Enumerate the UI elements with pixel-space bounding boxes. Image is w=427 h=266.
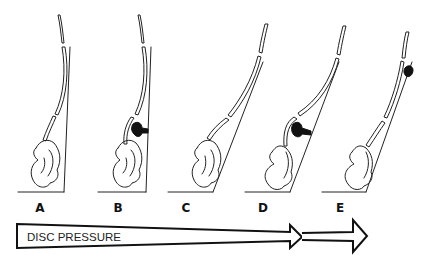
- panel-a-figure: [18, 15, 70, 192]
- panel-label-c: C: [182, 201, 191, 215]
- disc-pressure-arrow: DISC PRESSURE: [17, 220, 367, 252]
- panel-c-figure: [168, 24, 268, 192]
- panel-label-b: B: [113, 201, 122, 215]
- panel-e-figure: [322, 32, 413, 192]
- panel-label-e: E: [336, 201, 344, 215]
- panel-b-figure: [98, 15, 151, 192]
- disc-pressure-diagram: A B C D E DISC PRESSURE: [0, 0, 427, 266]
- disc-pressure-label: DISC PRESSURE: [27, 231, 121, 243]
- panel-label-d: D: [258, 201, 268, 215]
- panel-label-a: A: [35, 201, 45, 215]
